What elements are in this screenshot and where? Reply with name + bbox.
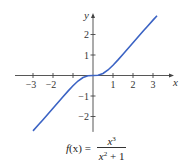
x-tick-label: −3 xyxy=(26,79,37,90)
y-tick-label: 2 xyxy=(84,29,89,40)
y-tick-label: −1 xyxy=(78,91,89,102)
y-axis-arrow-icon xyxy=(91,13,95,18)
denominator-rest: + 1 xyxy=(107,150,124,161)
x-axis-label: x xyxy=(172,76,178,88)
x-tick-label: 2 xyxy=(131,79,136,90)
formula-fraction: x3 x2 + 1 xyxy=(97,134,127,161)
formula-numerator: x3 xyxy=(105,134,117,147)
formula-denominator: x2 + 1 xyxy=(97,148,127,161)
function-curve xyxy=(33,16,157,131)
numerator-exponent: 3 xyxy=(112,135,116,143)
x-tick-label: −2 xyxy=(46,79,57,90)
formula-arg-equals: (x) = xyxy=(69,142,91,154)
y-tick-label: −2 xyxy=(78,111,89,122)
x-tick-label: 3 xyxy=(151,79,156,90)
axes xyxy=(15,13,174,132)
formula-lhs: f(x) = xyxy=(66,142,91,154)
x-tick-label: 1 xyxy=(111,79,116,90)
function-formula: f(x) = x3 x2 + 1 xyxy=(66,134,126,161)
y-tick-label: 1 xyxy=(84,50,89,61)
y-axis-label: y xyxy=(83,9,89,21)
